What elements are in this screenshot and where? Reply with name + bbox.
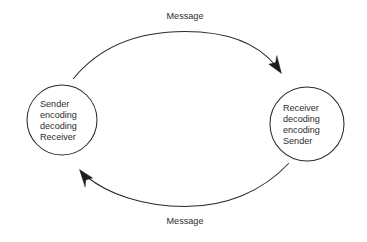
node-right[interactable]: Receiver decoding encoding Sender [270,87,344,161]
edge-bottom-message [80,164,289,207]
right-node-line-1: Receiver [283,103,319,113]
left-node-line-4: Receiver [40,132,76,142]
right-node-line-2: decoding [283,114,320,124]
left-node-line-3: decoding [40,121,77,131]
top-arrowhead-icon [269,56,282,74]
node-left[interactable]: Sender encoding decoding Receiver [27,85,97,155]
edge-top-message [74,32,282,79]
right-node-circle[interactable] [270,87,344,161]
right-node-line-3: encoding [283,125,320,135]
communication-cycle-diagram: Sender encoding decoding Receiver Receiv… [0,0,367,242]
bottom-arrowhead-icon [80,170,93,188]
bottom-arc-path [87,164,289,207]
top-arc-path [74,32,276,79]
diagram-canvas: Sender encoding decoding Receiver Receiv… [0,0,367,242]
left-node-line-1: Sender [40,99,69,109]
bottom-edge-label: Message [167,216,204,226]
left-node-line-2: encoding [40,110,77,120]
left-node-circle[interactable] [27,85,97,155]
right-node-line-4: Sender [283,136,312,146]
top-edge-label: Message [167,11,204,21]
